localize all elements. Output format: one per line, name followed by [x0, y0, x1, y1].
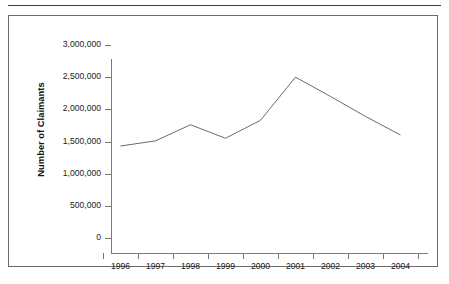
chart-page: Number of Claimants 0500,0001,000,0001,5… — [0, 0, 449, 284]
chart-frame: Number of Claimants 0500,0001,000,0001,5… — [8, 15, 438, 267]
series-line-number-of-claimants — [121, 77, 401, 146]
top-horizontal-rule — [8, 5, 441, 6]
line-series-claimants — [9, 16, 439, 268]
